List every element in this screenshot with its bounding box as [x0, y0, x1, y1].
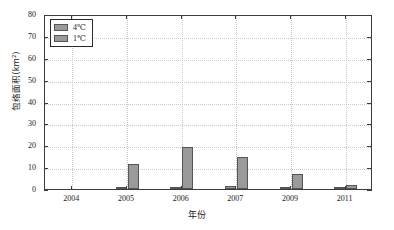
- x-tick-mark-top: [235, 15, 236, 19]
- y-tick-mark-right: [367, 81, 372, 82]
- bar-2006-1℃[interactable]: [182, 147, 193, 189]
- y-tick-mark: [44, 81, 48, 82]
- x-tick-label: 2005: [106, 194, 146, 203]
- x-tick-mark: [235, 186, 236, 190]
- legend-label: 4℃: [73, 24, 86, 32]
- y-tick-mark-right: [367, 124, 372, 125]
- plot-area: [44, 15, 372, 190]
- y-tick-mark: [44, 59, 48, 60]
- x-tick-mark-top: [126, 15, 127, 19]
- x-tick-label: 2011: [325, 194, 365, 203]
- x-tick-mark: [71, 186, 72, 190]
- bar-2009-4℃[interactable]: [280, 187, 291, 189]
- bar-2009-1℃[interactable]: [292, 174, 303, 189]
- x-tick-mark-top: [290, 15, 291, 19]
- legend-swatch-icon: [54, 35, 68, 42]
- chart-legend[interactable]: 4℃1℃: [50, 19, 93, 47]
- bar-2005-4℃[interactable]: [116, 187, 127, 189]
- x-tick-label: 2006: [161, 194, 201, 203]
- legend-item-1℃[interactable]: 1℃: [54, 33, 86, 44]
- x-tick-mark: [181, 186, 182, 190]
- bars-layer: [45, 16, 371, 189]
- y-tick-mark: [44, 37, 48, 38]
- bar-2006-4℃[interactable]: [170, 187, 181, 189]
- legend-label: 1℃: [73, 35, 86, 43]
- y-tick-mark-right: [367, 168, 372, 169]
- y-tick-label: 10: [6, 164, 36, 172]
- y-axis-title: 包络面积(km²): [9, 36, 21, 126]
- y-tick-label: 20: [6, 142, 36, 150]
- legend-item-4℃[interactable]: 4℃: [54, 22, 86, 33]
- x-tick-label: 2004: [51, 194, 91, 203]
- y-tick-mark-right: [367, 15, 372, 16]
- y-tick-mark-right: [367, 190, 372, 191]
- y-tick-label: 80: [6, 11, 36, 19]
- y-tick-mark: [44, 190, 48, 191]
- x-axis-title: 年份: [0, 208, 394, 221]
- y-tick-label: 0: [6, 186, 36, 194]
- x-tick-label: 2007: [215, 194, 255, 203]
- bar-2007-1℃[interactable]: [237, 157, 248, 189]
- bar-2005-1℃[interactable]: [128, 164, 139, 189]
- y-tick-mark-right: [367, 146, 372, 147]
- y-tick-mark-right: [367, 103, 372, 104]
- x-tick-mark-top: [345, 15, 346, 19]
- bar-2011-4℃[interactable]: [334, 187, 345, 189]
- x-tick-mark: [126, 186, 127, 190]
- y-tick-mark: [44, 15, 48, 16]
- legend-swatch-icon: [54, 24, 68, 31]
- y-tick-mark: [44, 146, 48, 147]
- y-tick-mark: [44, 168, 48, 169]
- y-tick-mark: [44, 103, 48, 104]
- x-tick-mark-top: [181, 15, 182, 19]
- x-tick-label: 2009: [270, 194, 310, 203]
- bar-2011-1℃[interactable]: [346, 185, 357, 189]
- x-tick-mark: [290, 186, 291, 190]
- x-tick-mark: [345, 186, 346, 190]
- y-tick-mark-right: [367, 37, 372, 38]
- bar-2007-4℃[interactable]: [225, 186, 236, 189]
- y-tick-mark: [44, 124, 48, 125]
- chart-figure: 0102030405060708020042005200620072009201…: [0, 0, 394, 230]
- y-tick-mark-right: [367, 59, 372, 60]
